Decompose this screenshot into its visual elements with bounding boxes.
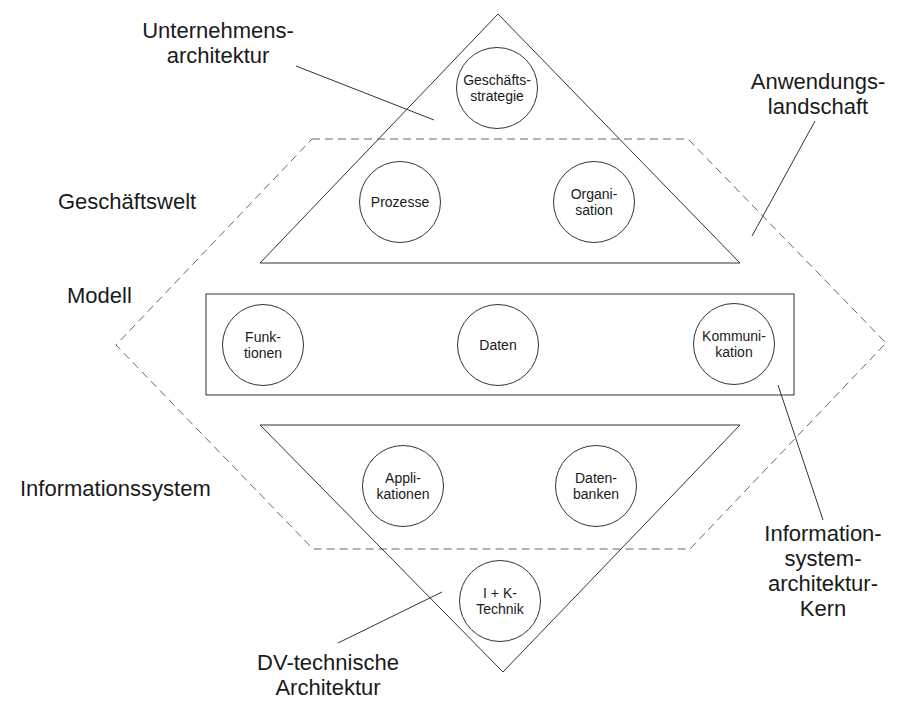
label-line: Informationssystem [20, 476, 211, 501]
label-geschaeftswelt: Geschäftswelt [58, 189, 196, 214]
node-text: Geschäfts- [463, 72, 531, 88]
label-line: Kern [758, 596, 888, 621]
node-text: Appli- [385, 470, 421, 486]
label-anwendungslandschaft: Anwendungs- landschaft [728, 69, 907, 119]
label-isa-kern: Information- system- architektur- Kern [758, 521, 888, 621]
label-line: Anwendungs- [728, 69, 907, 94]
node-daten: Daten [457, 304, 539, 386]
label-line: Modell [67, 283, 132, 308]
pointer-dv-architektur [338, 592, 442, 643]
pointer-isa-kern [778, 385, 823, 520]
pointer-unternehmensarchitektur [296, 66, 434, 120]
label-line: system- [758, 546, 888, 571]
node-text: kationen [377, 486, 430, 502]
node-text: sation [575, 202, 612, 218]
pointer-anwendungslandschaft [752, 121, 815, 236]
node-text: I + K- [483, 585, 517, 601]
node-applikationen: Appli- kationen [362, 445, 444, 527]
node-geschaeftsstrategie: Geschäfts- strategie [456, 47, 538, 129]
label-line: architektur [118, 43, 318, 68]
node-text: strategie [470, 88, 524, 104]
node-text: Technik [476, 601, 523, 617]
label-line: Architektur [238, 675, 418, 700]
node-text: Kommuni- [702, 328, 766, 344]
node-text: Organi- [571, 186, 618, 202]
label-informationssystem: Informationssystem [20, 476, 211, 501]
node-text: Prozesse [371, 194, 429, 210]
label-modell: Modell [67, 283, 132, 308]
node-text: tionen [244, 345, 282, 361]
node-ik-technik: I + K- Technik [459, 560, 541, 642]
label-dv-architektur: DV-technische Architektur [238, 650, 418, 700]
label-line: architektur- [758, 571, 888, 596]
label-line: Information- [758, 521, 888, 546]
label-line: landschaft [728, 94, 907, 119]
node-text: Funk- [245, 329, 281, 345]
node-funktionen: Funk- tionen [222, 304, 304, 386]
node-prozesse: Prozesse [359, 161, 441, 243]
node-kommunikation: Kommuni- kation [693, 303, 775, 385]
label-line: Geschäftswelt [58, 189, 196, 214]
node-text: Daten- [575, 470, 617, 486]
node-text: kation [715, 344, 752, 360]
label-unternehmensarchitektur: Unternehmens- architektur [118, 18, 318, 68]
node-text: banken [573, 486, 619, 502]
node-text: Daten [479, 337, 516, 353]
node-organisation: Organi- sation [553, 161, 635, 243]
node-datenbanken: Daten- banken [555, 445, 637, 527]
label-line: Unternehmens- [118, 18, 318, 43]
label-line: DV-technische [238, 650, 418, 675]
